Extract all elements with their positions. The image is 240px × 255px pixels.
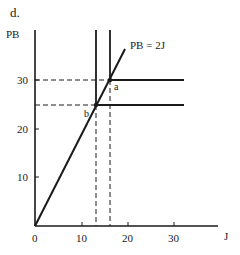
point-b-label: b xyxy=(84,108,89,119)
line-label: PB = 2J xyxy=(130,39,166,51)
y-tick-label: 10 xyxy=(17,171,29,183)
x-tick-label: 30 xyxy=(168,232,180,244)
y-axis-label: PB xyxy=(6,28,19,40)
x-tick-label: 0 xyxy=(32,232,38,244)
point-b-marker xyxy=(94,103,98,107)
y-tick-label: 20 xyxy=(17,123,29,135)
x-tick-label: 20 xyxy=(122,232,134,244)
chart-canvas: d. PB J 10 20 30 0 10 20 30 PB = 2J a b xyxy=(0,0,240,255)
point-a-label: a xyxy=(114,81,119,92)
x-tick-label: 10 xyxy=(76,232,88,244)
y-tick-label: 30 xyxy=(17,74,29,86)
point-a-marker xyxy=(108,78,112,82)
panel-label: d. xyxy=(10,5,20,20)
line-pb-equals-2j xyxy=(35,49,125,226)
x-axis-label: J xyxy=(224,230,229,242)
